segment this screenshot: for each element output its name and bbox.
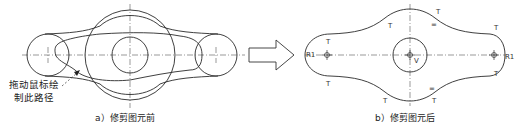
- tangent-mark: T: [493, 70, 499, 78]
- caption-a: a）修剪图元前: [95, 112, 155, 123]
- radius-mark-left: R1: [306, 51, 315, 59]
- right-arrow-icon: [249, 40, 294, 70]
- left-point-marker: [322, 50, 332, 60]
- trim-entities-figure: R1 R1 T T T T T T T T V = = 拖动鼠标绘 制此路径 a…: [0, 0, 520, 127]
- annotation-line-2: 制此路径: [14, 92, 54, 103]
- tangent-mark: T: [493, 24, 499, 32]
- caption-b: b）修剪图元后: [375, 112, 435, 123]
- equal-mark: =: [431, 21, 437, 29]
- transition-arrow: [249, 40, 294, 70]
- radius-mark-right: R1: [505, 53, 514, 61]
- annotation-line-1: 拖动鼠标绘: [9, 79, 59, 90]
- tangent-mark: T: [387, 22, 393, 30]
- equal-mark: =: [429, 85, 435, 93]
- figure-a-before-trim: [22, 4, 245, 108]
- figure-b-after-trim: R1 R1 T T T T T T T T V = =: [305, 4, 514, 106]
- bottom-outline-arc: [45, 76, 218, 95]
- tangent-mark: T: [325, 80, 331, 88]
- right-point-marker: [489, 50, 499, 60]
- tangent-mark: T: [325, 38, 331, 46]
- tangent-mark: T: [431, 97, 437, 105]
- tangent-mark: T: [435, 8, 441, 16]
- top-outline-arc: [45, 16, 218, 35]
- leader-line: [62, 73, 77, 86]
- tangent-mark: T: [382, 97, 388, 105]
- vertical-mark: V: [414, 57, 419, 65]
